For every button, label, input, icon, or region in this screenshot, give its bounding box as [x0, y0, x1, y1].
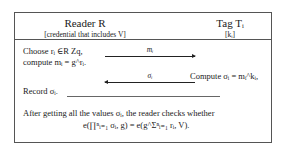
- protocol-box: Reader R [credential that includes V] Ta…: [14, 12, 272, 143]
- tag-subtitle: [kᵢ]: [160, 31, 287, 39]
- reader-title: Reader R: [15, 18, 155, 29]
- tag-column-header: Tag Tᵢ [kᵢ]: [160, 18, 287, 39]
- message-label-sigma: σᵢ: [105, 72, 195, 80]
- message-label-m: mᵢ: [105, 46, 195, 54]
- reader-step-record: Record σᵢ.: [23, 87, 58, 96]
- reader-column-header: Reader R [credential that includes V]: [15, 18, 155, 39]
- reader-subtitle: [credential that includes V]: [15, 31, 155, 39]
- verification-equation: e(∏ⁿᵢ₌₁ σᵢ, g) = e(g^Σⁿᵢ₌₁ rᵢ, V).: [83, 121, 189, 130]
- tag-step-compute: Compute σᵢ = mᵢ^kᵢ,: [190, 72, 258, 81]
- header-divider: [15, 39, 271, 40]
- arrow-reader-to-tag: [105, 56, 195, 57]
- reader-step-compute: compute mᵢ = g^rᵢ.: [23, 58, 86, 67]
- section-separator: [67, 96, 220, 97]
- verification-text: After getting all the values σᵢ, the rea…: [23, 109, 214, 118]
- arrow-tag-to-reader: [105, 82, 195, 83]
- reader-step-choose: Choose rᵢ ∈R Zq,: [23, 47, 83, 56]
- tag-title: Tag Tᵢ: [160, 18, 287, 29]
